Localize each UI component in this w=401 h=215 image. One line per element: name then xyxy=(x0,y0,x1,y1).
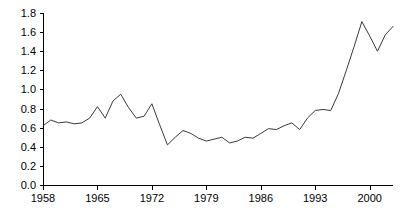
y-axis-tick-label: 0.0 xyxy=(21,179,36,191)
line-chart: 1.81.61.41.21.00.80.60.40.20.0 195819651… xyxy=(0,0,401,215)
y-axis-tick-label: 1.2 xyxy=(21,64,36,76)
x-axis-tick-label: 1965 xyxy=(85,192,109,204)
y-axis-tick-label: 0.6 xyxy=(21,122,36,134)
y-axis-tick-label: 0.4 xyxy=(21,141,36,153)
x-axis-tick-label: 1972 xyxy=(140,192,164,204)
y-axis-tick-label: 1.8 xyxy=(21,7,36,19)
y-axis-tick-label: 0.2 xyxy=(21,160,36,172)
x-axis-tick-marks xyxy=(44,186,371,190)
y-axis-tick-label: 0.8 xyxy=(21,103,36,115)
chart-canvas: 1.81.61.41.21.00.80.60.40.20.0 195819651… xyxy=(0,0,401,215)
y-axis-tick-label: 1.0 xyxy=(21,83,36,95)
y-axis-tick-label: 1.6 xyxy=(21,26,36,38)
x-axis-tick-label: 1958 xyxy=(31,192,55,204)
x-axis-tick-label: 1979 xyxy=(194,192,218,204)
data-series-line xyxy=(43,22,393,145)
x-axis-tick-label: 2000 xyxy=(357,192,381,204)
x-axis-tick-label: 1993 xyxy=(303,192,327,204)
x-axis-tick-label: 1986 xyxy=(249,192,273,204)
x-axis-tick-labels: 1958196519721979198619932000 xyxy=(31,192,382,204)
y-axis-tick-label: 1.4 xyxy=(21,45,36,57)
y-axis-tick-marks xyxy=(40,14,44,186)
y-axis-tick-labels: 1.81.61.41.21.00.80.60.40.20.0 xyxy=(21,7,36,191)
